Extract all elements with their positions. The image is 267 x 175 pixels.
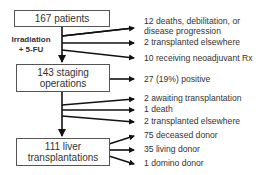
box-transplants: 111 liver transplantations: [16, 138, 110, 166]
box-staging: 143 staging operations: [16, 64, 110, 92]
outcome-deaths: 12 deaths, debilitation, or disease prog…: [144, 17, 240, 36]
box-patients-text: 167 patients: [35, 13, 90, 24]
outcome-deaths-line2: disease progression: [144, 27, 240, 37]
outcome-living-donor: 35 living donor: [144, 145, 200, 155]
outcome-transplanted-elsewhere-2: 2 transplanted elsewhere: [144, 117, 240, 127]
outcome-deceased-donor: 75 deceased donor: [144, 131, 218, 141]
treatment-label: Irradiation + 5-FU: [6, 35, 56, 55]
treatment-label-line1: Irradiation: [6, 35, 56, 45]
treatment-label-line2: + 5-FU: [6, 45, 56, 55]
outcome-domino-donor: 1 domino donor: [144, 159, 204, 169]
box-staging-line1: 143 staging: [37, 67, 89, 78]
outcome-awaiting: 2 awaiting transplantation: [144, 94, 241, 104]
box-staging-line2: operations: [40, 78, 87, 89]
box-transplants-line1: 111 liver: [45, 141, 81, 152]
outcome-death: 1 death: [144, 105, 173, 115]
box-transplants-line2: transplantations: [28, 152, 99, 163]
box-patients: 167 patients: [14, 10, 110, 27]
outcome-transplanted-elsewhere-1: 2 transplanted elsewhere: [144, 38, 240, 48]
outcome-neoadjuvant: 10 receiving neoadjuvant Rx: [144, 54, 252, 64]
outcome-positive: 27 (19%) positive: [144, 75, 210, 85]
